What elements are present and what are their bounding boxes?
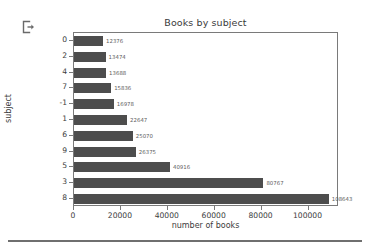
bar-row: 80767: [74, 175, 337, 191]
y-tick-mark: [69, 56, 73, 57]
bar-chart-figure: Books by subject subject 123761347413688…: [0, 0, 370, 233]
bar[interactable]: [74, 131, 133, 141]
plot-area: 1237613474136881583616978226472507026375…: [74, 33, 337, 205]
chart-title: Books by subject: [73, 17, 338, 28]
x-tick-mark: [167, 206, 168, 210]
y-tick-mark: [69, 40, 73, 41]
y-tick-mark: [69, 119, 73, 120]
bar[interactable]: [74, 68, 106, 78]
bar[interactable]: [74, 115, 127, 125]
x-tick-mark: [73, 206, 74, 210]
bar-row: 13474: [74, 49, 337, 65]
x-tick-mark: [308, 206, 309, 210]
y-tick-mark: [69, 166, 73, 167]
x-tick-label: 60000: [202, 211, 226, 220]
x-tick-mark: [214, 206, 215, 210]
bar-value-label: 12376: [103, 38, 123, 44]
bar-row: 25070: [74, 128, 337, 144]
bar-row: 40916: [74, 160, 337, 176]
y-tick-label: 4: [43, 67, 67, 76]
bar-value-label: 26375: [136, 149, 156, 155]
y-tick-label: 1: [43, 114, 67, 123]
x-tick-label: 100000: [293, 211, 322, 220]
x-tick-label: 20000: [108, 211, 132, 220]
bar-value-label: 22647: [127, 117, 147, 123]
y-axis-label: subject: [4, 94, 13, 123]
bar[interactable]: [74, 178, 263, 188]
bar-row: 22647: [74, 112, 337, 128]
y-tick-label: 5: [43, 161, 67, 170]
bar[interactable]: [74, 83, 111, 93]
bar-row: 13688: [74, 65, 337, 81]
y-tick-label: 9: [43, 146, 67, 155]
y-tick-mark: [69, 72, 73, 73]
y-tick-label: 6: [43, 130, 67, 139]
bar[interactable]: [74, 52, 106, 62]
bar-value-label: 108643: [329, 196, 353, 202]
bar-value-label: 15836: [111, 85, 131, 91]
y-tick-label: -1: [43, 98, 67, 107]
bar-value-label: 13688: [106, 70, 126, 76]
y-tick-label: 3: [43, 177, 67, 186]
bar-value-label: 80767: [263, 180, 283, 186]
bar-row: 15836: [74, 80, 337, 96]
bar[interactable]: [74, 99, 114, 109]
y-tick-label: 2: [43, 51, 67, 60]
bar-value-label: 40916: [170, 164, 190, 170]
y-tick-mark: [69, 198, 73, 199]
bar-value-label: 25070: [133, 133, 153, 139]
y-tick-mark: [69, 135, 73, 136]
plot-frame: 1237613474136881583616978226472507026375…: [73, 32, 338, 206]
bar-value-label: 13474: [106, 54, 126, 60]
y-tick-mark: [69, 103, 73, 104]
x-tick-mark: [120, 206, 121, 210]
bar-row: 16978: [74, 96, 337, 112]
bottom-divider: [8, 240, 362, 242]
bar[interactable]: [74, 36, 103, 46]
y-tick-mark: [69, 87, 73, 88]
x-tick-label: 0: [71, 211, 76, 220]
y-tick-label: 7: [43, 82, 67, 91]
x-tick-label: 40000: [155, 211, 179, 220]
x-axis-label: number of books: [73, 221, 338, 230]
y-tick-mark: [69, 182, 73, 183]
y-tick-label: 0: [43, 35, 67, 44]
bar[interactable]: [74, 162, 170, 172]
bar-row: 108643: [74, 191, 337, 207]
y-tick-label: 8: [43, 193, 67, 202]
bar-row: 26375: [74, 144, 337, 160]
bar[interactable]: [74, 194, 329, 204]
bar-value-label: 16978: [114, 101, 134, 107]
bar[interactable]: [74, 147, 136, 157]
x-tick-mark: [261, 206, 262, 210]
x-tick-label: 80000: [249, 211, 273, 220]
y-tick-mark: [69, 151, 73, 152]
bar-row: 12376: [74, 33, 337, 49]
